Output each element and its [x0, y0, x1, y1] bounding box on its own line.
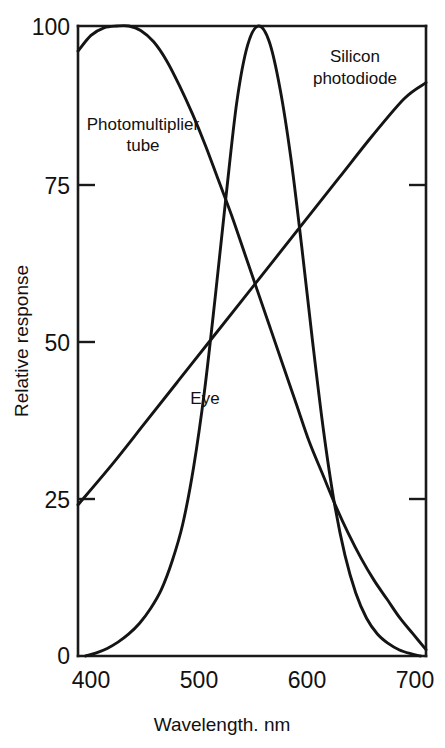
y-tick-label-0: 0 — [57, 643, 70, 669]
relative-response-vs-wavelength-chart: 100 75 50 25 0 400 500 600 700 Wavelengt… — [0, 0, 445, 748]
label-silicon-line2: photodiode — [313, 69, 397, 88]
label-photomultiplier-line1: Photomultiplier — [87, 115, 200, 134]
chart-figure: 100 75 50 25 0 400 500 600 700 Wavelengt… — [0, 0, 445, 748]
x-tick-label-500: 500 — [180, 667, 218, 693]
x-tick-label-400: 400 — [72, 667, 110, 693]
series-annotations: Photomultiplier tube Eye Silicon photodi… — [87, 47, 397, 408]
y-tick-label-25: 25 — [44, 487, 70, 513]
x-tick-label-600: 600 — [288, 667, 326, 693]
label-eye: Eye — [190, 389, 219, 408]
y-tick-label-75: 75 — [44, 173, 70, 199]
y-tick-label-50: 50 — [44, 330, 70, 356]
right-axis-ticks — [409, 185, 426, 499]
y-tick-label-100: 100 — [32, 14, 70, 40]
x-tick-label-700: 700 — [396, 667, 434, 693]
y-axis-ticks — [78, 185, 95, 499]
label-silicon-line1: Silicon — [330, 47, 380, 66]
y-axis-title: Relative response — [11, 265, 32, 417]
label-photomultiplier-line2: tube — [126, 136, 159, 155]
x-axis-title: Wavelength. nm — [154, 714, 291, 735]
